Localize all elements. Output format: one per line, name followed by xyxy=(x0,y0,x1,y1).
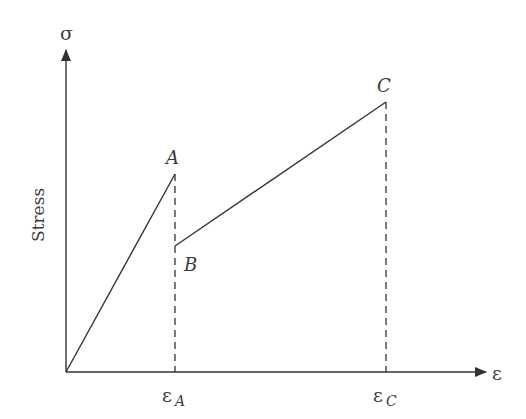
svg-text:A: A xyxy=(173,393,185,409)
y-axis-title: Stress xyxy=(28,188,48,242)
stress-strain-curve xyxy=(66,174,175,372)
x-axis-symbol: ε xyxy=(492,362,502,384)
tick-label-epsilon-a: ε A xyxy=(162,384,185,409)
post-drop-curve xyxy=(175,102,386,246)
svg-text:ε: ε xyxy=(373,384,383,406)
point-label-a: A xyxy=(164,147,179,168)
y-axis-symbol: σ xyxy=(60,22,73,44)
point-label-b: B xyxy=(183,254,197,275)
stress-strain-diagram: σ ε Stress A B C ε A ε C xyxy=(0,0,526,419)
svg-text:ε: ε xyxy=(162,384,172,406)
svg-text:C: C xyxy=(386,393,397,409)
tick-label-epsilon-c: ε C xyxy=(373,384,397,409)
point-label-c: C xyxy=(377,75,391,96)
